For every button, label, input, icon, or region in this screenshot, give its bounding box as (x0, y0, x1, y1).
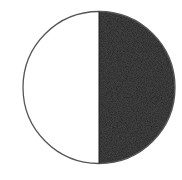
half-shaded-circle-diagram (0, 0, 182, 180)
right-half-dark (99, 12, 175, 164)
